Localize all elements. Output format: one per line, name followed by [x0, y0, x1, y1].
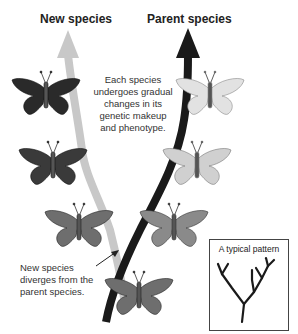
branching-tree-icon	[210, 240, 288, 330]
divergence-note: New species diverges from the parent spe…	[20, 262, 100, 298]
gradual-change-note: Each species undergoes gradual changes i…	[90, 74, 176, 134]
parent-species-heading: Parent species	[147, 12, 232, 26]
typical-pattern-inset: A typical pattern	[209, 239, 289, 331]
new-species-heading: New species	[40, 12, 112, 26]
butterfly-new-species-2	[19, 141, 87, 184]
